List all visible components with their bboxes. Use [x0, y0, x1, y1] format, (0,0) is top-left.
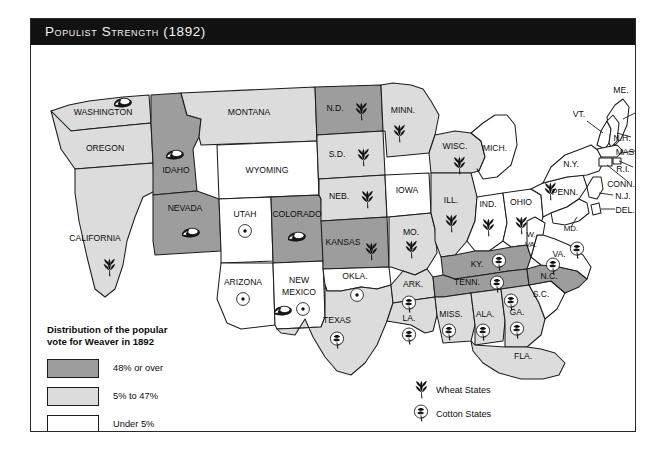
label-new-jersey: N.J. — [615, 191, 630, 201]
swatch-dark — [47, 359, 99, 378]
label-california: CALIFORNIA — [69, 233, 121, 243]
label-west-virginia-line2: VA. — [525, 240, 537, 249]
leader-vermont — [587, 121, 603, 133]
region-new-jersey — [587, 177, 603, 199]
label-michigan: MICH. — [483, 143, 507, 153]
region-missouri — [389, 213, 437, 275]
label-south-dakota: S.D. — [329, 149, 346, 159]
leader-new-jersey — [599, 193, 613, 195]
label-wisconsin: WISC. — [443, 141, 468, 151]
legend-item-5-to-47: 5% to 47% — [47, 384, 262, 409]
not-voting-dot-icon — [297, 303, 310, 316]
wheat-icon — [406, 379, 436, 401]
label-kentucky: KY. — [471, 259, 484, 269]
region-connecticut — [599, 158, 612, 166]
silver-icon — [406, 429, 436, 431]
label-nebraska: NEB. — [329, 191, 349, 201]
cotton-icon — [402, 328, 415, 344]
legend-label-wheat-states: Wheat States — [436, 385, 491, 395]
label-colorado: COLORADO — [272, 209, 321, 219]
legend-item-wheat-states: Wheat States — [406, 378, 576, 402]
label-maryland: MD. — [564, 224, 578, 233]
label-oklahoma: OKLA. — [342, 271, 367, 281]
label-montana: MONTANA — [228, 107, 271, 117]
label-virginia: VA. — [552, 249, 565, 259]
label-new-york: N.Y. — [563, 159, 579, 169]
label-oregon: OREGON — [86, 143, 124, 153]
map-title-bar: Populist Strength (1892) — [31, 19, 635, 45]
vote-legend-heading-line1: Distribution of the popular — [47, 324, 262, 336]
label-idaho: IDAHO — [162, 165, 190, 175]
label-connecticut: CONN. — [607, 179, 635, 189]
region-minnesota — [381, 83, 439, 157]
label-louisiana: LA. — [403, 313, 416, 323]
label-ohio: OHIO — [510, 197, 532, 207]
map-canvas: WASHINGTON OREGON CALIFORNIA IDAHO MONTA… — [31, 45, 635, 431]
region-colorado — [271, 195, 323, 263]
vote-legend-heading: Distribution of the popular vote for Wea… — [47, 324, 262, 349]
label-texas: TEXAS — [323, 315, 351, 325]
label-new-mexico-line1: NEW — [289, 275, 310, 285]
vote-legend: Distribution of the popular vote for Wea… — [47, 324, 262, 431]
not-voting-dot-icon — [237, 293, 250, 306]
label-arkansas: ARK. — [403, 279, 423, 289]
label-delaware: DEL. — [615, 205, 634, 215]
label-kansas: KANSAS — [326, 237, 361, 247]
label-iowa: IOWA — [396, 185, 419, 195]
label-maine: ME. — [613, 85, 628, 95]
swatch-white — [47, 415, 99, 431]
page-title: Populist Strength (1892) — [45, 24, 206, 39]
label-utah: UTAH — [234, 209, 257, 219]
swatch-light — [47, 387, 99, 406]
symbol-legend: Wheat States Cotton States Silver States — [406, 378, 576, 431]
legend-item-under-5: Under 5% — [47, 412, 262, 431]
label-north-carolina: N.C. — [540, 271, 557, 281]
label-rhode-island: R.I. — [616, 164, 629, 174]
label-wyoming: WYOMING — [246, 165, 289, 175]
not-voting-dot-icon — [351, 289, 364, 302]
region-nevada — [153, 191, 221, 255]
legend-item-48-or-over: 48% or over — [47, 356, 262, 381]
label-mississippi: MISS. — [439, 309, 462, 319]
legend-label-under-5: Under 5% — [113, 419, 154, 429]
label-massachusetts: MAS — [616, 147, 635, 157]
label-tennessee: TENN. — [454, 277, 480, 287]
label-indiana: IND. — [479, 199, 496, 209]
label-arizona: ARIZONA — [224, 277, 262, 287]
legend-label-48-or-over: 48% or over — [113, 363, 163, 373]
label-illinois: ILL. — [444, 195, 458, 205]
region-iowa — [385, 173, 431, 217]
label-north-dakota: N.D. — [326, 103, 343, 113]
label-new-mexico-line2: MEXICO — [282, 287, 316, 297]
label-south-carolina: S.C. — [533, 289, 550, 299]
legend-label-cotton-states: Cotton States — [436, 409, 491, 419]
label-new-hampshire: N.H. — [613, 133, 630, 143]
not-voting-dot-icon — [239, 225, 252, 238]
region-delaware — [591, 203, 601, 215]
vote-legend-heading-line2: vote for Weaver in 1892 — [47, 336, 262, 348]
label-florida: FLA. — [514, 351, 532, 361]
legend-item-cotton-states: Cotton States — [406, 402, 576, 426]
label-minnesota: MINN. — [391, 105, 415, 115]
legend-label-5-to-47: 5% to 47% — [113, 391, 158, 401]
legend-item-silver-states: Silver States — [406, 426, 576, 431]
label-vermont: VT. — [573, 109, 585, 119]
region-california — [75, 163, 155, 297]
label-alabama: ALA. — [476, 309, 495, 319]
label-washington: WASHINGTON — [74, 107, 133, 117]
label-west-virginia-line1: W. — [526, 230, 535, 239]
label-nevada: NEVADA — [168, 203, 203, 213]
label-missouri: MO. — [403, 227, 419, 237]
cotton-icon — [406, 403, 436, 425]
map-panel: Populist Strength (1892) — [30, 18, 636, 432]
